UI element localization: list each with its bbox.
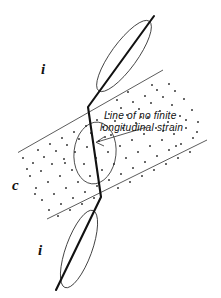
strain-diagram-figure: i c i Line of no finite longitudinal str… [0,0,221,298]
caption-line-2: longitudinal strain [100,122,183,135]
shear-zone-stipple [22,83,199,217]
shear-zone-band [18,70,207,219]
label-i-bottom: i [38,243,42,258]
caption-line-1: Line of no finite [104,110,177,123]
label-c: c [12,178,19,193]
label-i-top: i [41,62,45,77]
shear-zone-lower-boundary [47,140,207,219]
diagram-canvas [0,0,221,298]
